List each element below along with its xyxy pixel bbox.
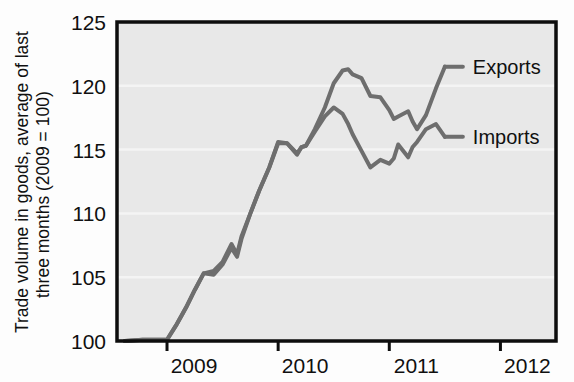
- x-tick-label: 2011: [394, 354, 439, 377]
- x-tick-label: 2010: [282, 354, 329, 377]
- x-tick-label: 2012: [504, 354, 551, 377]
- y-tick-label: 115: [73, 139, 106, 162]
- y-axis-label-line1: Trade volume in goods, average of last: [12, 31, 32, 333]
- y-tick-label: 100: [71, 330, 106, 353]
- y-tick-label: 120: [71, 75, 106, 98]
- y-tick-label: 110: [73, 202, 106, 225]
- y-tick-label: 105: [71, 266, 106, 289]
- trade-volume-line-chart: 100105110115120125 2009201020112012 Trad…: [0, 0, 574, 382]
- x-tick-label: 2009: [171, 354, 218, 377]
- y-axis-label-line2: three months (2009 = 100): [33, 91, 53, 298]
- series-label-exports: Exports: [473, 56, 541, 78]
- chart-figure: 100105110115120125 2009201020112012 Trad…: [0, 0, 574, 382]
- series-label-imports: Imports: [473, 126, 540, 148]
- y-tick-label: 125: [71, 11, 106, 34]
